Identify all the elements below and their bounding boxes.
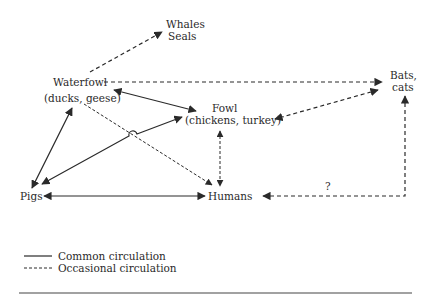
legend-occasional-label: Occasional circulation bbox=[58, 262, 177, 274]
node-fowl: Fowl (chickens, turkey) bbox=[185, 102, 281, 126]
node-bats-cats: Bats, cats bbox=[390, 69, 417, 93]
waterfowl-sublabel: (ducks, geese) bbox=[44, 92, 121, 104]
question-mark-label: ? bbox=[325, 180, 331, 192]
edge-bats-fowl bbox=[275, 90, 378, 119]
legend-common-label: Common circulation bbox=[58, 250, 166, 262]
fowl-sublabel: (chickens, turkey) bbox=[185, 114, 281, 126]
humans-label: Humans bbox=[208, 190, 252, 202]
bats-label: Bats, bbox=[390, 69, 417, 81]
fowl-label: Fowl bbox=[212, 102, 238, 114]
edge-waterfowl-fowl bbox=[114, 90, 196, 111]
pigs-label: Pigs bbox=[20, 190, 43, 202]
edge-waterfowl-pigs bbox=[32, 108, 72, 188]
node-waterfowl: Waterfowl (ducks, geese) bbox=[44, 76, 121, 104]
edge-bats-humans bbox=[263, 96, 405, 196]
diagram-canvas: Whales Seals Waterfowl (ducks, geese) Ba… bbox=[0, 0, 431, 296]
edge-waterfowl-whales bbox=[90, 32, 162, 72]
seals-label: Seals bbox=[168, 30, 196, 42]
node-pigs: Pigs bbox=[20, 190, 43, 202]
node-humans: Humans bbox=[208, 190, 252, 202]
cats-label: cats bbox=[392, 81, 414, 93]
legend: Common circulation Occasional circulatio… bbox=[24, 250, 177, 274]
whales-label: Whales bbox=[166, 18, 205, 30]
node-whales-seals: Whales Seals bbox=[166, 18, 205, 42]
waterfowl-label: Waterfowl bbox=[53, 76, 108, 88]
